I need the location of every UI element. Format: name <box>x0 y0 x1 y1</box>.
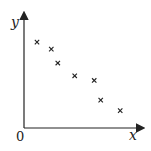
cross-marker <box>56 61 60 65</box>
y-axis-label: y <box>10 14 20 30</box>
cross-marker <box>99 98 103 102</box>
cross-marker <box>73 74 77 78</box>
scatter-chart: y x 0 <box>0 0 151 151</box>
cross-marker <box>118 108 122 112</box>
cross-marker <box>49 47 53 51</box>
x-axis-label: x <box>129 127 137 143</box>
origin-label: 0 <box>16 129 24 144</box>
cross-marker <box>92 78 96 82</box>
cross-marker <box>35 40 39 44</box>
data-points <box>35 40 123 113</box>
